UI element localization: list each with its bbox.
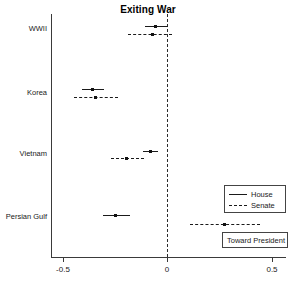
- legend-label-house: House: [251, 189, 273, 200]
- annotation-box: Toward President: [222, 232, 288, 248]
- point-house-persian-gulf: [114, 214, 117, 217]
- point-senate-korea: [94, 96, 97, 99]
- annotation-label: Toward President: [223, 233, 289, 249]
- category-label-persian-gulf: Persian Gulf: [0, 213, 47, 221]
- chart-title: Exiting War: [0, 4, 290, 15]
- category-label-vietnam: Vietnam: [0, 150, 47, 158]
- point-house-wwii: [154, 25, 157, 28]
- category-label-korea: Korea: [0, 89, 47, 97]
- point-senate-persian-gulf: [223, 223, 226, 226]
- point-house-vietnam: [149, 150, 152, 153]
- x-tick-label--0.5: -0.5: [43, 266, 83, 274]
- ci-senate-wwii: [128, 34, 172, 35]
- x-axis-line: [51, 257, 286, 258]
- category-label-wwii: WWII: [0, 25, 47, 33]
- zero-reference-line: [167, 14, 168, 257]
- x-tick-label-0: 0: [147, 266, 187, 274]
- y-axis-line: [51, 14, 52, 257]
- point-house-korea: [91, 88, 94, 91]
- point-senate-vietnam: [125, 157, 128, 160]
- x-tick-label-0.5: 0.5: [252, 266, 290, 274]
- legend-entry-senate: Senate: [229, 200, 283, 211]
- x-tick-0: [167, 258, 168, 262]
- legend-key-solid-line-icon: [229, 194, 247, 195]
- chart-canvas: Exiting War -0.5 0 0.5 WWII Korea Vietna…: [0, 0, 290, 293]
- x-tick--0.5: [63, 258, 64, 262]
- x-tick-0.5: [272, 258, 273, 262]
- legend-entry-house: House: [229, 189, 283, 200]
- legend: House Senate: [224, 185, 286, 213]
- point-senate-wwii: [151, 33, 154, 36]
- legend-label-senate: Senate: [251, 200, 275, 211]
- legend-key-dashed-line-icon: [229, 205, 247, 206]
